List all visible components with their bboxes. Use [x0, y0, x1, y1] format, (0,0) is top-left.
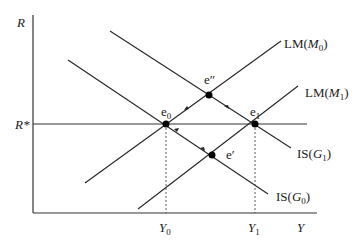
is-g1-label: IS(G1): [297, 146, 331, 163]
arrow-icon: [184, 106, 189, 110]
r-star-label: R*: [14, 117, 30, 132]
point-e1: [252, 121, 259, 128]
e0-label: e0: [161, 104, 172, 121]
lm-m0-label: LM(M0): [284, 36, 328, 53]
x-axis-label: Y: [297, 220, 306, 235]
e-prime-label: e′: [226, 147, 235, 162]
y1-label: Y1: [248, 220, 260, 237]
point-e-double-prime: [206, 92, 213, 99]
lm-m1-label: LM(M1): [305, 85, 349, 102]
y0-label: Y0: [159, 220, 171, 237]
point-e-prime: [209, 152, 216, 159]
is-g0-label: IS(G0): [276, 189, 310, 206]
e1-label: e1: [250, 104, 260, 121]
point-e0: [163, 121, 170, 128]
is-g1-curve: [110, 31, 291, 148]
e-double-prime-label: e″: [204, 72, 215, 87]
islm-diagram: R Y R* Y0 Y1 LM(M0) LM(M1) IS(G1) IS(G0)…: [0, 0, 357, 246]
y-axis-label: R: [16, 15, 25, 30]
